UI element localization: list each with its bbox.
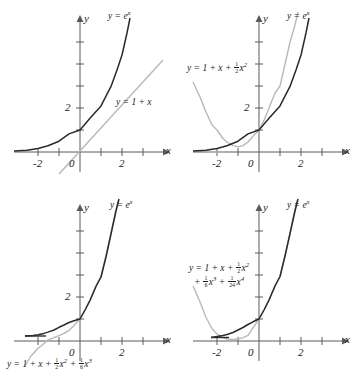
x-tick-label-neg2: -2 [33, 158, 42, 169]
approximation-row2-prefix: + [194, 277, 203, 287]
exponential-curve [25, 199, 119, 336]
panel-top-left-plot [0, 0, 179, 189]
x-axis-name: x [345, 334, 350, 345]
y-axis-name: y [84, 202, 89, 213]
approximation-label-prefix: y = 1 + x + [187, 63, 234, 73]
x-tick-label-neg2: -2 [212, 158, 221, 169]
approximation-plus: + [67, 359, 78, 369]
panel-bottom-right: -2 0 2 x y y = ex y = 1 + x + 12x2 + 16x… [179, 189, 358, 378]
approximation-label-row1: y = 1 + x + 12x2 [189, 263, 249, 273]
exp-curve-label: y = ex [287, 199, 310, 211]
panel-bottom-left-plot [0, 189, 179, 378]
y-axis-arrow [256, 15, 263, 22]
approximation-row2-fraction-sixth: 16 [203, 275, 208, 288]
approximation-label: y = 1 + x [116, 98, 152, 108]
exponential-curve [14, 18, 130, 151]
y-axis-name: y [263, 13, 268, 24]
x-tick-label-2: 2 [119, 158, 125, 169]
y-axis [255, 211, 263, 361]
approximation-label: y = 1 + x + 12x2 + 16x3 [7, 357, 92, 370]
exp-curve-label-text: y = e [108, 11, 128, 21]
x-axis [193, 337, 342, 345]
row2-fraction2-denominator: 24 [228, 281, 236, 288]
approximation-row2-plus: + [216, 277, 227, 287]
exp-curve-label-exponent: x [130, 198, 133, 205]
x-tick-label-2: 2 [119, 347, 125, 358]
approximation-row1-fraction-half: 12 [236, 261, 241, 274]
x-axis-name: x [345, 145, 350, 156]
y-axis-arrow [77, 15, 84, 22]
exp-curve-label: y = ex [287, 10, 310, 22]
y-axis [255, 22, 263, 172]
exp-curve-label-exponent: x [128, 9, 131, 16]
exp-curve-label-exponent: x [307, 198, 310, 205]
approximation-label-prefix: y = 1 + x + [7, 359, 54, 369]
x-tick-label-2: 2 [298, 158, 304, 169]
panel-top-right-plot [179, 0, 358, 189]
panel-top-right: -2 0 2 2 x y y = ex y = 1 + x + 12x2 [179, 0, 358, 189]
row2-fraction-denominator: 6 [203, 281, 208, 288]
x-axis [14, 337, 163, 345]
y-axis-arrow [256, 204, 263, 211]
exp-curve-label-text: y = e [287, 11, 307, 21]
exp-curve-label: y = ex [110, 199, 133, 211]
panel-top-left: -2 0 2 2 x y y = ex y = 1 + x [0, 0, 179, 189]
approximation-exponent-2: 3 [89, 357, 92, 364]
fraction-denominator: 2 [234, 67, 239, 74]
y-tick-label-2: 2 [65, 102, 71, 113]
x-axis-name: x [166, 145, 171, 156]
exp-curve-label-text: y = e [287, 200, 307, 210]
approximation-label: y = 1 + x + 12x2 [187, 61, 247, 74]
y-tick-label-2: 2 [244, 102, 250, 113]
taylor-approximation-figure: -2 0 2 2 x y y = ex y = 1 + x [0, 0, 358, 378]
approximation-row1-exponent: 2 [246, 261, 249, 268]
exp-curve-label: y = ex [108, 10, 131, 22]
row1-fraction-denominator: 2 [236, 267, 241, 274]
approximation-exponent: 2 [244, 61, 247, 68]
x-tick-label-0: 0 [248, 158, 254, 169]
approximation-row2-fraction-24th: 124 [228, 275, 236, 288]
x-tick-label-0: 0 [69, 158, 75, 169]
x-axis-name: x [166, 334, 171, 345]
y-axis [76, 211, 84, 361]
x-tick-label-0: 0 [248, 347, 254, 358]
approximation-label: y = 1 + x + 12x2 + 16x3 + 124x4 [189, 261, 249, 288]
approximation-fraction-half: 12 [234, 61, 239, 74]
approximation-row1-prefix: y = 1 + x + [189, 263, 236, 273]
approximation-label-row2: + 16x3 + 124x4 [189, 275, 249, 288]
panel-bottom-left: 0 2 2 x y y = ex y = 1 + x + 12x2 + 16x3 [0, 189, 179, 378]
quadratic-approximation-curve [193, 12, 298, 147]
x-tick-label-neg2: -2 [212, 347, 221, 358]
y-axis-name: y [263, 202, 268, 213]
fraction-denominator: 2 [54, 363, 59, 370]
y-axis [76, 22, 84, 172]
y-axis-arrow [77, 204, 84, 211]
approximation-row2-exponent-2: 4 [241, 275, 244, 282]
y-tick-label-2: 2 [65, 291, 71, 302]
exp-curve-label-text: y = e [110, 200, 130, 210]
exp-curve-label-exponent: x [307, 9, 310, 16]
y-axis-name: y [84, 13, 89, 24]
x-tick-label-2: 2 [298, 347, 304, 358]
approximation-fraction-half: 12 [54, 357, 59, 370]
